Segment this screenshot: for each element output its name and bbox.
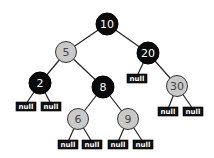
svg-text:6: 6	[75, 113, 82, 126]
svg-text:null: null	[161, 108, 176, 116]
node-9: 9	[118, 109, 139, 130]
svg-text:9: 9	[125, 113, 132, 126]
node-2: 2	[29, 72, 51, 94]
node-8: 8	[92, 76, 114, 98]
null-leaf: null	[158, 107, 178, 116]
svg-text:30: 30	[170, 80, 184, 93]
svg-text:2: 2	[37, 77, 44, 90]
null-leaf: null	[183, 107, 203, 116]
null-leaf: null	[108, 140, 128, 149]
svg-text:20: 20	[141, 47, 155, 60]
svg-text:10: 10	[100, 18, 114, 31]
svg-text:null: null	[44, 103, 59, 111]
null-leaf: null	[127, 74, 147, 83]
svg-text:null: null	[130, 75, 145, 83]
null-leaf: null	[58, 140, 78, 149]
null-leaf: null	[82, 140, 102, 149]
svg-text:null: null	[19, 103, 34, 111]
svg-text:null: null	[61, 141, 76, 149]
null-leaf: null	[41, 102, 61, 111]
svg-text:5: 5	[63, 46, 70, 59]
svg-text:null: null	[85, 141, 100, 149]
svg-text:null: null	[186, 108, 201, 116]
svg-text:null: null	[111, 141, 126, 149]
svg-text:null: null	[136, 141, 151, 149]
red-black-tree-diagram: null null null null null null null null	[0, 0, 214, 158]
null-leaf: null	[133, 140, 153, 149]
null-leaf: null	[16, 102, 36, 111]
node-10: 10	[96, 13, 118, 35]
svg-text:8: 8	[100, 81, 107, 94]
node-6: 6	[68, 109, 89, 130]
node-5: 5	[56, 42, 77, 63]
node-20: 20	[137, 42, 159, 64]
node-30: 30	[167, 76, 188, 97]
